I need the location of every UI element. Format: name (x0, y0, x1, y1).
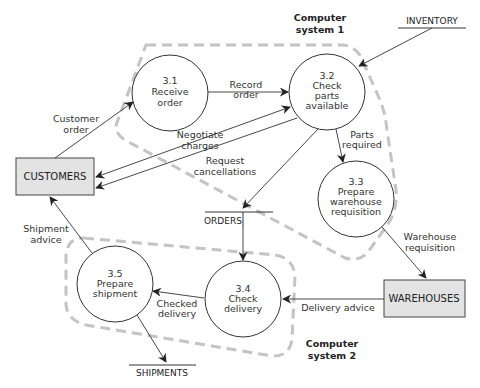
flow-delivery-advice: Delivery advice (283, 299, 384, 313)
svg-text:Computer: Computer (294, 12, 347, 23)
svg-text:shipment: shipment (93, 288, 138, 299)
svg-text:ORDERS: ORDERS (204, 216, 242, 226)
svg-text:delivery: delivery (224, 303, 263, 314)
svg-text:required: required (342, 139, 382, 150)
data-flow-diagram: Computer system 1 Computer system 2 INVE… (0, 0, 480, 388)
svg-text:order: order (233, 89, 258, 100)
svg-text:SHIPMENTS: SHIPMENTS (136, 368, 188, 378)
flow-record-order: Record order (208, 79, 288, 100)
svg-text:CUSTOMERS: CUSTOMERS (24, 171, 87, 182)
svg-text:available: available (306, 100, 349, 111)
svg-text:system 2: system 2 (308, 350, 356, 361)
svg-text:advice: advice (30, 234, 61, 245)
system-2-label: Computer system 2 (306, 338, 359, 361)
process-3-2-check-parts-available: 3.2 Check parts available (289, 54, 365, 130)
svg-text:Request: Request (206, 155, 245, 166)
svg-text:Customer: Customer (53, 113, 99, 124)
flow-inventory-to-check-parts (359, 28, 432, 66)
svg-text:requisition: requisition (405, 242, 455, 253)
svg-text:Negotiate: Negotiate (177, 129, 224, 140)
svg-text:Computer: Computer (306, 338, 359, 349)
process-3-1-receive-order: 3.1 Receive order (132, 55, 208, 131)
svg-text:order: order (157, 97, 182, 108)
svg-text:Shipment: Shipment (23, 223, 69, 234)
svg-text:delivery: delivery (158, 308, 197, 319)
data-store-shipments: SHIPMENTS (129, 365, 196, 378)
process-3-5-prepare-shipment: 3.5 Prepare shipment (77, 246, 153, 322)
svg-text:charges: charges (181, 140, 219, 151)
system-1-label: Computer system 1 (294, 12, 347, 35)
svg-text:Receive: Receive (151, 86, 188, 97)
svg-text:order: order (63, 124, 88, 135)
process-3-4-check-delivery: 3.4 Check delivery (205, 261, 281, 337)
flow-warehouse-requisition: Warehouse requisition (382, 227, 457, 278)
svg-text:WAREHOUSES: WAREHOUSES (388, 293, 459, 304)
svg-text:requisition: requisition (331, 206, 381, 217)
svg-text:INVENTORY: INVENTORY (406, 16, 458, 26)
svg-text:cancellations: cancellations (194, 166, 256, 177)
process-3-3-prepare-warehouse-requisition: 3.3 Prepare warehouse requisition (318, 161, 394, 237)
flow-parts-required: Parts required (336, 129, 382, 162)
flow-checked-delivery-label: Checked delivery (157, 298, 198, 319)
external-entity-customers: CUSTOMERS (16, 158, 94, 195)
svg-text:Warehouse: Warehouse (404, 231, 457, 242)
flow-shipment-advice: Shipment advice (23, 197, 92, 253)
svg-text:system 1: system 1 (296, 24, 344, 35)
flow-checked-delivery (153, 291, 204, 298)
flow-prepare-shipment-to-shipments (137, 315, 166, 362)
svg-text:3.1: 3.1 (162, 75, 177, 86)
external-entity-warehouses: WAREHOUSES (384, 280, 465, 317)
flow-customer-order: Customer order (53, 102, 133, 158)
svg-text:Delivery advice: Delivery advice (301, 302, 375, 313)
data-store-inventory: INVENTORY (398, 16, 466, 28)
